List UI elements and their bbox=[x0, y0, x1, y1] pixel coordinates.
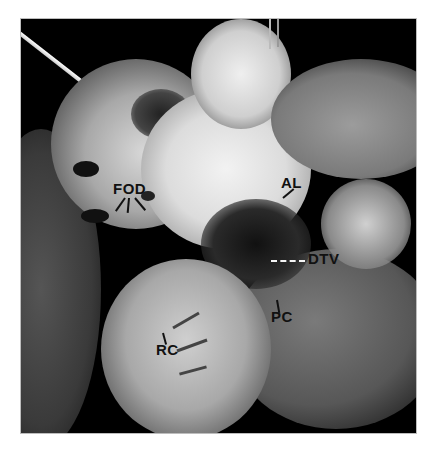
dark-opening bbox=[73, 161, 99, 177]
label-dtv: DTV bbox=[308, 251, 340, 266]
label-fod: FOD bbox=[113, 181, 146, 196]
chorda-string bbox=[269, 19, 271, 49]
dark-opening bbox=[81, 209, 109, 223]
figure-caption bbox=[26, 443, 426, 452]
chorda-string bbox=[277, 19, 279, 47]
anatomical-photo: FOD AL DTV PC RC bbox=[20, 18, 417, 434]
dtv-pointer-dashed bbox=[271, 260, 305, 262]
label-pc: PC bbox=[271, 309, 293, 324]
label-rc: RC bbox=[156, 342, 179, 357]
